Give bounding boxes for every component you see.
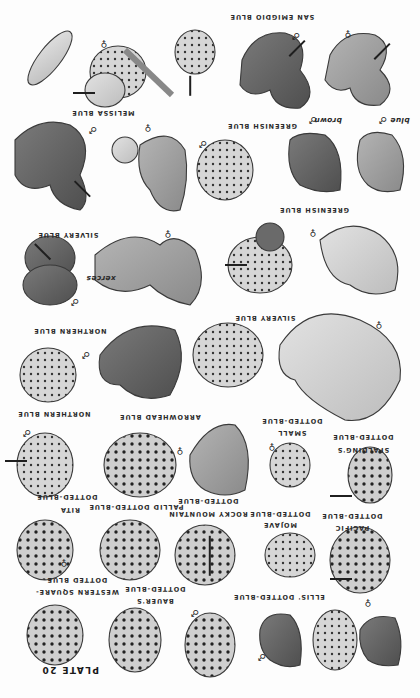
- label-western-square-line2: WESTERN SQUARE-: [35, 589, 119, 596]
- female-symbol-icon: ♀: [310, 228, 317, 237]
- label-brown: brown: [314, 116, 342, 124]
- label-bauers-line1: DOTTED-BLUE: [124, 586, 185, 593]
- label-melissa-blue: MELISSA BLUE: [71, 110, 134, 117]
- label-san-emigdio-blue: SAN EMIGDIO BLUE: [230, 14, 315, 21]
- label-rita-line2: RITA: [60, 507, 80, 514]
- label-greenish-blue-mid: GREENISH BLUE: [279, 207, 349, 214]
- label-rocky-mountain-line1: DOTTED-BLUE: [177, 498, 238, 505]
- label-arrowhead-blue: ARROWHEAD BLUE: [119, 414, 201, 421]
- male-symbol-icon: ♂: [89, 125, 97, 134]
- label-northern-blue-lower: NORTHERN BLUE: [18, 411, 91, 418]
- label-small-dotted-blue-line1: DOTTED-BLUE: [261, 418, 322, 425]
- female-symbol-icon: ♀: [269, 442, 276, 451]
- female-symbol-icon: ♀: [165, 229, 172, 238]
- male-symbol-icon: ♂: [23, 428, 31, 437]
- male-symbol-icon: ♂: [191, 608, 199, 617]
- label-spaldings-line1: DOTTED-BLUE: [332, 434, 393, 441]
- male-symbol-icon: ♂: [71, 297, 79, 306]
- female-symbol-icon: ♀: [376, 320, 383, 329]
- label-pacific-line2: PACIFIC: [335, 525, 369, 532]
- field-guide-plate: SAN EMIGDIO BLUE MELISSA BLUE GREENISH B…: [0, 0, 420, 698]
- plate-title: PLATE 20: [41, 665, 99, 674]
- label-rocky-mountain-line2: ROCKY MOUNTAIN: [168, 511, 247, 518]
- pointer-arrow: [209, 536, 211, 576]
- male-symbol-icon: ♂: [292, 31, 300, 40]
- label-mojave-line1: DOTTED-BLUE: [249, 511, 310, 518]
- label-silvery-blue-upper: SILVERY BLUE: [38, 232, 99, 239]
- female-symbol-icon: ♀: [177, 446, 184, 455]
- pointer-arrow: [225, 264, 247, 266]
- label-blue: blue: [390, 116, 410, 124]
- pointer-arrow: [5, 460, 27, 462]
- female-symbol-icon: ♀: [101, 39, 108, 48]
- label-small-dotted-blue-line2: SMALL: [278, 430, 307, 437]
- male-symbol-icon: ♂: [309, 115, 317, 124]
- pointer-arrow: [330, 495, 352, 497]
- male-symbol-icon: ♂: [258, 652, 266, 661]
- label-mojave-line2: MOJAVE: [263, 522, 297, 529]
- label-xerces: xerces: [86, 274, 115, 282]
- female-symbol-icon: ♀: [365, 598, 372, 607]
- label-northern-blue-upper: NORTHERN BLUE: [34, 328, 107, 335]
- label-rita-line1: DOTTED-BLUE: [36, 494, 97, 501]
- label-bauers-line2: BAUER'S: [136, 598, 173, 605]
- female-symbol-icon: ♀: [345, 29, 352, 38]
- pointer-arrow: [73, 92, 95, 94]
- male-symbol-icon: ♂: [379, 115, 387, 124]
- label-pacific-line1: DOTTED-BLUE: [321, 513, 382, 520]
- male-symbol-icon: ♂: [199, 139, 207, 148]
- female-symbol-icon: ♀: [61, 558, 68, 567]
- label-western-square-line1: DOTTED BLUE: [47, 577, 108, 584]
- male-symbol-icon: ♂: [82, 350, 90, 359]
- label-greenish-blue-upper: GREENISH BLUE: [227, 123, 297, 130]
- label-ellis-dotted-blue: ELLIS' DOTTED-BLUE: [233, 594, 324, 601]
- female-symbol-icon: ♀: [145, 123, 152, 132]
- pointer-arrow: [330, 578, 352, 580]
- label-silvery-blue-mid: SILVERY BLUE: [235, 315, 296, 322]
- label-spaldings-line2: SPALDING'S: [337, 447, 389, 454]
- pointer-arrow: [189, 76, 191, 96]
